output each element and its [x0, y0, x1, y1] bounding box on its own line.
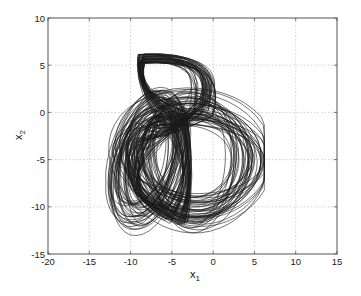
y-tick-label: 0 [40, 107, 45, 118]
grid-lines [48, 18, 337, 254]
y-tick-label: 10 [34, 13, 45, 24]
x-tick-label: 15 [332, 256, 343, 267]
x-axis-ticks: -20-15-10-5051015 [41, 18, 342, 267]
x-tick-label: -5 [168, 256, 176, 267]
y-axis-label: x2 [12, 130, 27, 141]
y-tick-label: -15 [31, 249, 45, 260]
plot-frame [48, 18, 337, 254]
x-axis-label: x1 [190, 268, 201, 283]
x-tick-label: -10 [124, 256, 138, 267]
attractor-trajectory [106, 54, 264, 236]
x-tick-label: 0 [210, 256, 215, 267]
y-tick-label: -10 [31, 201, 45, 212]
y-tick-label: -5 [37, 154, 45, 165]
x-tick-label: 10 [290, 256, 301, 267]
y-tick-label: 5 [40, 60, 45, 71]
x-tick-label: 5 [252, 256, 257, 267]
x-tick-label: -15 [82, 256, 96, 267]
phase-portrait-chart: -20-15-10-5051015 -15-10-50510 x1 x2 [0, 0, 361, 296]
